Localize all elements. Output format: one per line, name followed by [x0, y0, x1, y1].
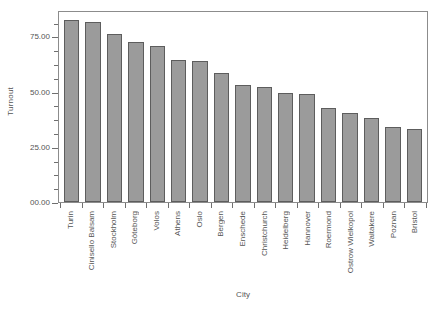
bar[interactable] [128, 42, 143, 202]
y-tick-label: 75.00 [10, 32, 50, 41]
x-tick [103, 203, 104, 208]
bar-slot [339, 12, 360, 202]
bar-slot [211, 12, 232, 202]
x-tick [275, 203, 276, 208]
x-category-label: Cinisello Balsam [86, 211, 98, 289]
x-category-label: Roermond [323, 211, 335, 289]
x-category-label: Christchurch [259, 211, 271, 289]
bar[interactable] [278, 93, 293, 202]
x-tick [168, 203, 169, 208]
bar-slot [147, 12, 168, 202]
x-category-label: Athens [172, 211, 184, 289]
bar-slot [125, 12, 146, 202]
y-tick-label: 25.00 [10, 143, 50, 152]
x-category-label-text: Bristol [409, 211, 421, 233]
x-category-label: Heidelberg [280, 211, 292, 289]
y-axis-title: Turnout [2, 0, 18, 203]
plot-area [58, 11, 428, 203]
bar-slot [232, 12, 253, 202]
bar-slot [382, 12, 403, 202]
bar[interactable] [192, 61, 207, 202]
x-category-label: Hannover [302, 211, 314, 289]
x-category-label-text: Göteborg [129, 211, 141, 244]
x-category-label-text: Ostrow Wielkopol [345, 211, 357, 273]
x-tick [82, 203, 83, 208]
bar[interactable] [299, 94, 314, 202]
x-tick [426, 203, 427, 208]
bar[interactable] [235, 85, 250, 202]
x-tick [125, 203, 126, 208]
bar[interactable] [342, 113, 357, 202]
bar[interactable] [214, 73, 229, 202]
x-tick [60, 203, 61, 208]
x-category-label-text: Oslo [194, 211, 206, 227]
x-category-label: Stockholm [108, 211, 120, 289]
bar-chart-figure: Turnout 00.0025.0050.0075.00 TurinCinise… [0, 0, 440, 318]
x-tick [297, 203, 298, 208]
bar[interactable] [364, 118, 379, 202]
x-category-label: Waitakere [366, 211, 378, 289]
x-tick [146, 203, 147, 208]
bar[interactable] [385, 127, 400, 202]
x-category-label: Göteborg [129, 211, 141, 289]
y-tick-major [52, 203, 58, 204]
bar-slot [189, 12, 210, 202]
bar[interactable] [107, 34, 122, 202]
x-category-label-text: Stockholm [108, 211, 120, 248]
bar-slot [275, 12, 296, 202]
x-category-label-text: Turin [65, 211, 77, 229]
bar[interactable] [257, 87, 272, 202]
bar-slot [82, 12, 103, 202]
bar[interactable] [85, 22, 100, 202]
x-category-label-text: Athens [172, 211, 184, 236]
x-category-label-text: Hannover [302, 211, 314, 246]
x-category-label: Volos [151, 211, 163, 289]
bar[interactable] [171, 60, 186, 202]
bar[interactable] [64, 20, 79, 202]
x-category-label-text: Poznan [388, 211, 400, 238]
bar-slot [168, 12, 189, 202]
y-tick-label: 50.00 [10, 88, 50, 97]
x-tick [340, 203, 341, 208]
x-category-label-text: Bergen [215, 211, 227, 237]
bar-slot [254, 12, 275, 202]
bar-slot [104, 12, 125, 202]
x-tick [318, 203, 319, 208]
x-category-label: Ostrow Wielkopol [345, 211, 357, 289]
x-tick [383, 203, 384, 208]
x-category-label-text: Roermond [323, 211, 335, 248]
bar-slot [296, 12, 317, 202]
x-category-label: Oslo [194, 211, 206, 289]
x-category-label: Enschede [237, 211, 249, 289]
x-tick [361, 203, 362, 208]
x-category-label: Poznan [388, 211, 400, 289]
x-tick [211, 203, 212, 208]
x-category-label: Turin [65, 211, 77, 289]
x-category-label-text: Christchurch [259, 211, 271, 256]
bar-slot [318, 12, 339, 202]
bar[interactable] [321, 108, 336, 202]
x-tick [404, 203, 405, 208]
x-category-label-text: Waitakere [366, 211, 378, 247]
x-axis-title: City [58, 290, 428, 299]
y-tick-label: 00.00 [10, 198, 50, 207]
bar-series [59, 12, 427, 202]
x-category-label-text: Heidelberg [280, 211, 292, 250]
x-category-label-text: Cinisello Balsam [86, 211, 98, 270]
bar[interactable] [150, 46, 165, 202]
bar-slot [361, 12, 382, 202]
bar-slot [61, 12, 82, 202]
x-tick [232, 203, 233, 208]
x-category-label: Bristol [409, 211, 421, 289]
x-tick [254, 203, 255, 208]
x-category-label: Bergen [215, 211, 227, 289]
x-category-label-text: Volos [151, 211, 163, 231]
x-tick [189, 203, 190, 208]
x-category-label-text: Enschede [237, 211, 249, 247]
bar[interactable] [407, 129, 422, 202]
bar-slot [404, 12, 425, 202]
